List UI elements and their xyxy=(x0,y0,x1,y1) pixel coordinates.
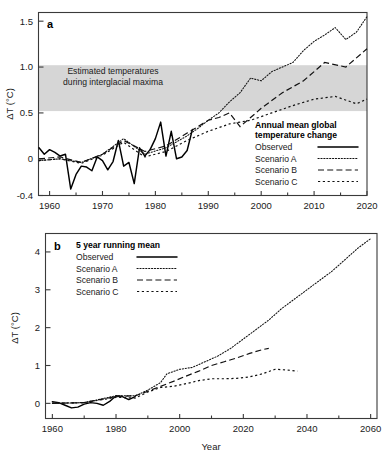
series-scenario-b-line xyxy=(52,348,268,403)
panel-a-y-axis-title: ΔT (°C) xyxy=(4,88,15,120)
panel-b-x-ticks: 196019802000202020402060 xyxy=(42,414,381,434)
panel-b-svg: 43210 196019802000202020402060 ΔT (°C) Y… xyxy=(0,228,389,456)
figure-container: 1.51.00.50-0.4 1960197019801990200020102… xyxy=(0,0,389,456)
panel-a-legend: Annual mean global temperature change Ob… xyxy=(255,120,358,187)
x-tick-label: 2000 xyxy=(169,423,190,434)
panel-b-letter: b xyxy=(54,240,61,252)
x-tick-label: 1970 xyxy=(92,200,113,211)
panel-b-legend-label-observed: Observed xyxy=(76,252,113,262)
panel-a-legend-label-scenario-a: Scenario A xyxy=(255,154,297,164)
panel-b-y-axis-title: ΔT (°C) xyxy=(9,312,20,344)
panel-b-legend-label-scenario-c: Scenario C xyxy=(76,287,119,297)
x-tick-label: 1990 xyxy=(198,200,219,211)
panel-b-legend-label-scenario-a: Scenario A xyxy=(76,264,118,274)
panel-b-legend-title: 5 year running mean xyxy=(76,240,160,250)
x-tick-label: 1960 xyxy=(39,200,60,211)
x-tick-label: 1960 xyxy=(42,423,63,434)
panel-a: 1.51.00.50-0.4 1960197019801990200020102… xyxy=(0,0,389,228)
x-tick-label: 2060 xyxy=(360,423,381,434)
band-label-line2: during interglacial maxima xyxy=(63,77,163,87)
x-tick-label: 2000 xyxy=(251,200,272,211)
panel-a-svg: 1.51.00.50-0.4 1960197019801990200020102… xyxy=(0,0,389,228)
series-scenario-c-line xyxy=(52,369,297,403)
x-tick-label: 1980 xyxy=(145,200,166,211)
y-tick-label: 0.5 xyxy=(20,107,33,118)
y-tick-label: 0 xyxy=(28,153,33,164)
x-tick-label: 2040 xyxy=(296,423,317,434)
x-tick-label: 2020 xyxy=(356,200,377,211)
band-label-line1: Estimated temperatures xyxy=(67,66,158,76)
panel-a-legend-label-observed: Observed xyxy=(255,142,292,152)
y-tick-label: 2 xyxy=(35,322,40,333)
y-tick-label: 1.5 xyxy=(20,16,33,27)
panel-b-legend: 5 year running mean Observed Scenario A … xyxy=(76,240,177,297)
panel-b-legend-label-scenario-b: Scenario B xyxy=(76,275,118,285)
panel-b: 43210 196019802000202020402060 ΔT (°C) Y… xyxy=(0,228,389,456)
series-observed-line xyxy=(52,396,135,408)
panel-a-legend-label-scenario-c: Scenario C xyxy=(255,177,298,187)
panel-b-x-axis-title: Year xyxy=(201,441,220,452)
panel-a-legend-title-line2: temperature change xyxy=(255,130,337,140)
y-tick-label: 4 xyxy=(35,246,40,257)
series-observed-line xyxy=(39,122,192,189)
y-tick-label: -0.4 xyxy=(17,190,33,201)
y-tick-label: 3 xyxy=(35,284,40,295)
panel-b-y-ticks: 43210 xyxy=(35,246,51,408)
y-tick-label: 1.0 xyxy=(20,61,33,72)
x-tick-label: 2010 xyxy=(304,200,325,211)
panel-a-legend-label-scenario-b: Scenario B xyxy=(255,165,297,175)
panel-a-x-ticks: 1960197019801990200020102020 xyxy=(39,191,378,211)
panel-a-letter: a xyxy=(47,18,54,30)
y-tick-label: 1 xyxy=(35,360,40,371)
x-tick-label: 1980 xyxy=(105,423,126,434)
panel-a-legend-title-line1: Annual mean global xyxy=(255,120,337,130)
y-tick-label: 0 xyxy=(35,398,40,409)
x-tick-label: 2020 xyxy=(233,423,254,434)
